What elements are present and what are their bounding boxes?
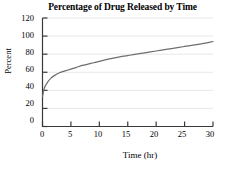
y-tick-marks	[43, 18, 48, 127]
chart-figure: Percentage of Drug Released by Time Perc…	[0, 0, 245, 169]
x-tick-marks	[43, 122, 214, 127]
data-series-line	[43, 42, 214, 97]
plot-area	[0, 0, 245, 169]
gridlines	[43, 18, 214, 108]
